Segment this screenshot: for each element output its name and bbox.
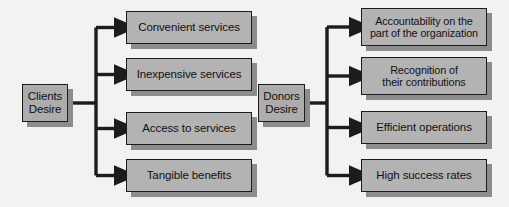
connector-group-donors bbox=[305, 27, 351, 176]
node-donors-desire[interactable]: DonorsDesire bbox=[258, 84, 305, 122]
node-label: Inexpensive services bbox=[133, 68, 246, 81]
node-label: Accountability on thepart of the organiz… bbox=[366, 15, 482, 39]
node-label: Convenient services bbox=[134, 21, 244, 34]
node-label: ClientsDesire bbox=[24, 90, 66, 116]
node-tangible-benefits[interactable]: Tangible benefits bbox=[126, 159, 252, 192]
node-efficient-operations[interactable]: Efficient operations bbox=[361, 111, 487, 144]
node-convenient-services[interactable]: Convenient services bbox=[126, 11, 252, 44]
connector-group-clients bbox=[68, 28, 116, 176]
diagram-canvas: ClientsDesire Convenient services Inexpe… bbox=[0, 0, 509, 207]
node-label: Access to services bbox=[138, 122, 239, 135]
node-label: High success rates bbox=[372, 169, 475, 182]
node-access-to-services[interactable]: Access to services bbox=[126, 112, 252, 145]
node-label: DonorsDesire bbox=[259, 90, 303, 116]
node-recognition[interactable]: Recognition oftheir contributions bbox=[361, 57, 487, 95]
node-clients-desire[interactable]: ClientsDesire bbox=[22, 84, 68, 122]
node-inexpensive-services[interactable]: Inexpensive services bbox=[126, 58, 252, 91]
node-label: Tangible benefits bbox=[143, 169, 236, 182]
node-accountability[interactable]: Accountability on thepart of the organiz… bbox=[361, 8, 487, 46]
node-label: Efficient operations bbox=[372, 121, 476, 134]
node-high-success-rates[interactable]: High success rates bbox=[361, 159, 487, 192]
node-label: Recognition oftheir contributions bbox=[378, 64, 469, 88]
